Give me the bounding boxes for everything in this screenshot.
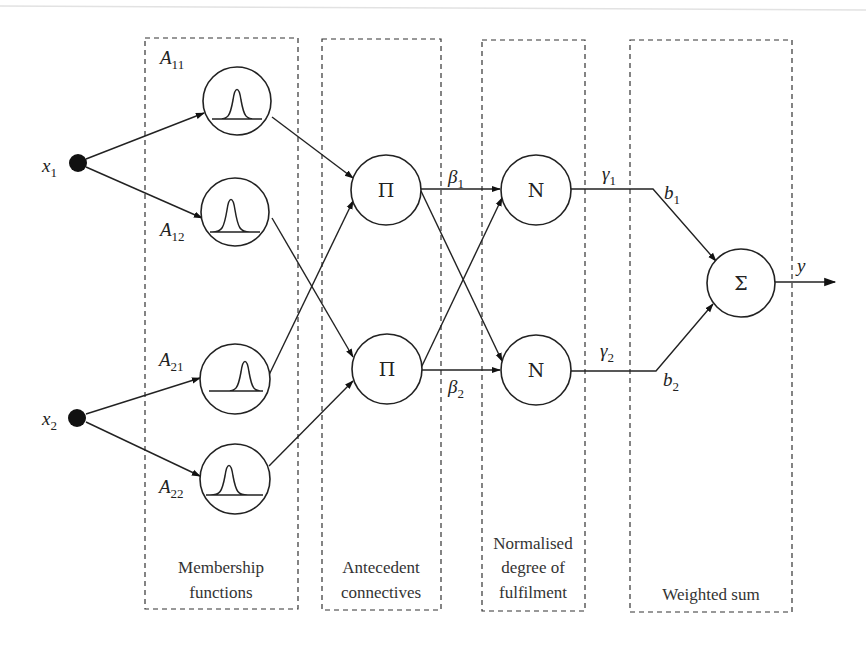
layer-box-normalised: [482, 40, 585, 611]
label-b1: b1: [664, 182, 680, 207]
scan-artifact-line: [0, 6, 866, 10]
label-gamma2: γ2: [600, 340, 614, 365]
sum-symbol: Σ: [734, 272, 747, 294]
sum-node: Σ: [707, 249, 775, 317]
edge-A12-P2: [272, 218, 353, 357]
edge-P1-N2: [421, 191, 502, 361]
label-A21: A21: [157, 349, 184, 374]
product-node-1: Π: [351, 155, 421, 225]
caption-antecedent-line1: Antecedent: [342, 558, 420, 577]
caption-normalised-line2: degree of: [501, 558, 565, 577]
label-x2: x2: [41, 408, 57, 433]
label-A12: A12: [158, 219, 185, 244]
product-symbol: Π: [379, 358, 396, 380]
normalise-symbol: N: [528, 179, 545, 201]
edge-A21-P1: [269, 201, 353, 375]
anfis-diagram: Π Π N N Σ x1 x2 A11 A12 A21 A22 β1 β2: [0, 0, 866, 646]
layer-box-weighted: [630, 40, 792, 612]
normalise-node-2: N: [501, 335, 571, 405]
label-output-y: y: [795, 255, 806, 276]
edge-N1-S: [571, 189, 716, 261]
caption-normalised-line3: fulfilment: [499, 583, 567, 602]
product-symbol: Π: [378, 179, 395, 201]
label-beta2: β2: [447, 376, 464, 401]
caption-membership-line1: Membership: [178, 558, 264, 577]
label-A11: A11: [158, 47, 184, 72]
caption-weighted: Weighted sum: [662, 585, 759, 604]
normalise-node-1: N: [501, 155, 571, 225]
edge-x2-A21: [86, 378, 200, 414]
caption-normalised-line1: Normalised: [493, 534, 573, 553]
normalise-symbol: N: [528, 359, 545, 381]
mf-node-A21: [200, 344, 270, 414]
layer-box-antecedent: [322, 39, 441, 610]
label-gamma1: γ1: [602, 163, 616, 188]
mf-node-A22: [200, 444, 270, 514]
edge-N2-S: [571, 304, 713, 371]
label-x1: x1: [41, 155, 57, 180]
edge-A22-P2: [269, 381, 353, 466]
input-node-x1: [69, 154, 87, 172]
mf-node-A11: [203, 67, 271, 135]
edge-x2-A22: [86, 422, 200, 476]
edge-A11-P1: [272, 117, 353, 178]
caption-antecedent-line2: connectives: [341, 583, 421, 602]
caption-membership-line2: functions: [189, 583, 252, 602]
input-node-x2: [68, 409, 86, 427]
mf-node-A12: [201, 178, 269, 246]
label-beta1: β1: [447, 166, 464, 191]
edge-x1-A12: [86, 167, 202, 218]
label-b2: b2: [663, 369, 679, 394]
product-node-2: Π: [352, 334, 422, 404]
edge-P2-N1: [421, 198, 502, 368]
label-A22: A22: [157, 476, 184, 501]
